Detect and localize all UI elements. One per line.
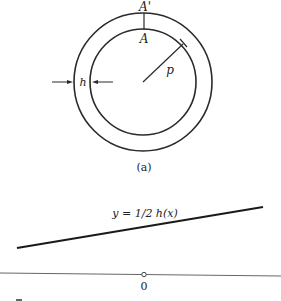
ring-figure: A' A h p <box>52 0 212 151</box>
radius-line <box>143 44 183 82</box>
origin-label: 0 <box>141 280 148 293</box>
inner-point-label: A <box>139 32 149 46</box>
x-axis <box>0 273 281 276</box>
thickness-label: h <box>79 76 86 89</box>
origin-marker <box>142 272 146 276</box>
outer-point-label: A' <box>138 0 151 14</box>
h-arrow-left-head-icon <box>67 80 73 84</box>
radius-label: p <box>166 63 174 77</box>
curve-label: y = 1/2 h(x) <box>111 207 178 220</box>
figure-caption: (a) <box>136 161 151 174</box>
h-arrow-right-head-icon <box>92 80 98 84</box>
graph: y = 1/2 h(x) 0 <box>0 207 281 300</box>
diagram-canvas: A' A h p (a) y = 1/2 h(x) 0 <box>0 0 281 301</box>
